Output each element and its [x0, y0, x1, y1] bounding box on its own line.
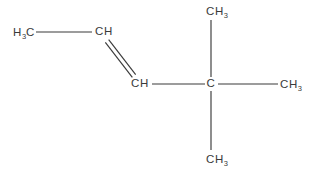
- bond-double-alkene-stroke-2: [105, 42, 132, 77]
- atom-label-alkene-carbon-upper: CH: [95, 26, 113, 38]
- bond-double-alkene-stroke-1: [109, 40, 136, 75]
- atom-label-methyl-right: CH3: [280, 79, 302, 91]
- chemical-structure-diagram: H3C CH CH C CH3 CH3 CH3: [0, 0, 311, 177]
- atom-label-methyl-top: CH3: [206, 6, 228, 18]
- atom-label-methyl-bottom: CH3: [206, 154, 228, 166]
- bond-layer: [0, 0, 311, 177]
- atom-label-quaternary-carbon: C: [207, 78, 216, 90]
- atom-label-methyl-terminal: H3C: [13, 27, 35, 39]
- atom-label-alkene-carbon-lower: CH: [131, 78, 149, 90]
